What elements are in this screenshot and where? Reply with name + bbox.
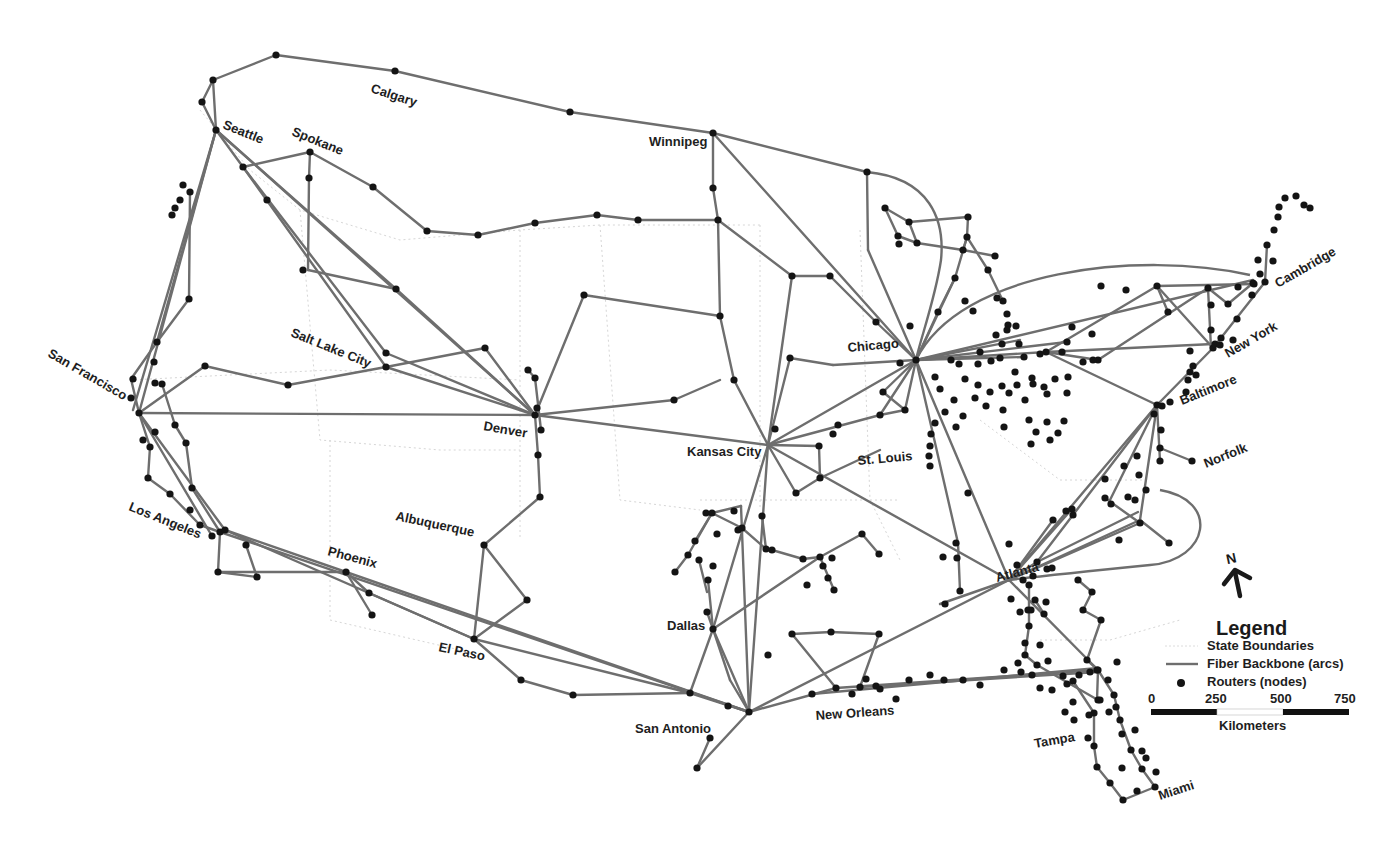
fiber-arc: [148, 478, 170, 494]
router-node: [1014, 659, 1021, 666]
fiber-arc: [718, 220, 792, 276]
router-node: [1156, 457, 1163, 464]
router-node: [901, 406, 908, 413]
router-node: [1005, 540, 1012, 547]
fiber-arc: [584, 295, 720, 316]
router-node: [956, 587, 963, 594]
router-node: [894, 232, 901, 239]
router-node: [1207, 326, 1214, 333]
fiber-arc: [772, 550, 803, 559]
router-node: [151, 428, 158, 435]
router-node: [1192, 371, 1199, 378]
router-node: [959, 412, 966, 419]
fiber-arc: [535, 295, 584, 415]
router-node: [1070, 716, 1077, 723]
router-node: [182, 439, 189, 446]
fiber-arc: [699, 560, 707, 592]
legend-item-routers: Routers (nodes): [1177, 674, 1307, 689]
router-node: [999, 406, 1006, 413]
router-node: [959, 676, 966, 683]
router-node: [534, 451, 541, 458]
router-node: [1248, 291, 1255, 298]
fiber-arc: [1208, 288, 1211, 348]
router-node: [1074, 576, 1081, 583]
city-label: Calgary: [369, 81, 420, 110]
router-node: [1233, 315, 1240, 322]
router-node: [730, 376, 737, 383]
router-node: [1156, 444, 1163, 451]
router-node: [1152, 768, 1159, 775]
legend-label: Routers (nodes): [1207, 674, 1307, 689]
router-node: [1036, 641, 1043, 648]
router-node: [1112, 703, 1119, 710]
router-node: [537, 426, 544, 433]
router-node: [1093, 763, 1100, 770]
router-node: [1165, 539, 1172, 546]
router-node: [730, 507, 737, 514]
fiber-arc: [713, 133, 867, 172]
legend-item-state-boundaries: State Boundaries: [1165, 638, 1314, 653]
router-node: [1089, 356, 1096, 363]
router-node: [895, 240, 902, 247]
fiber-arc: [148, 447, 150, 478]
router-node: [961, 297, 968, 304]
router-node: [1306, 204, 1313, 211]
fiber-arc: [713, 629, 730, 680]
city-label: Dallas: [667, 618, 705, 633]
router-node: [391, 67, 398, 74]
router-node: [1157, 426, 1164, 433]
router-node: [1063, 338, 1070, 345]
scale-tick-0: 0: [1148, 691, 1155, 706]
router-node: [221, 526, 228, 533]
router-node: [1164, 308, 1171, 315]
fiber-arc: [243, 152, 310, 167]
router-node: [998, 340, 1005, 347]
router-node: [771, 425, 778, 432]
fiber-arc: [831, 632, 879, 634]
router-node: [1186, 347, 1193, 354]
fiber-arc: [535, 215, 597, 223]
router-node: [593, 211, 600, 218]
router-node: [139, 436, 146, 443]
router-node: [1036, 350, 1043, 357]
router-node: [517, 676, 524, 683]
router-node: [959, 246, 966, 253]
router-node: [905, 218, 912, 225]
fiber-arc: [386, 367, 535, 415]
router-node: [828, 554, 835, 561]
router-node: [1021, 396, 1028, 403]
router-node: [127, 394, 134, 401]
fiber-arc: [697, 738, 710, 768]
router-node: [185, 295, 192, 302]
router-node: [299, 266, 306, 273]
router-node: [1153, 282, 1160, 289]
north-arrow-label: N: [1224, 549, 1237, 567]
router-node: [1085, 711, 1092, 718]
router-node: [144, 474, 151, 481]
fiber-arc: [535, 415, 538, 455]
router-node: [709, 129, 716, 136]
router-node: [1088, 330, 1095, 337]
fiber-arc: [867, 172, 868, 250]
city-label: Cambridge: [1272, 244, 1338, 291]
legend-item-fiber-backbone: Fiber Backbone (arcs): [1166, 656, 1344, 671]
router-node: [987, 357, 994, 364]
fiber-arc: [427, 231, 478, 235]
router-node: [940, 676, 947, 683]
fiber-arc: [690, 629, 713, 693]
fiber-arc: [1160, 448, 1192, 461]
router-node: [1217, 334, 1224, 341]
router-node: [1133, 452, 1140, 459]
router-node: [1263, 241, 1270, 248]
router-node: [481, 344, 488, 351]
router-node: [941, 408, 948, 415]
fiber-arc: [830, 276, 876, 322]
router-node: [1101, 475, 1108, 482]
router-node: [709, 562, 716, 569]
router-node: [826, 272, 833, 279]
router-dot-icon: [1177, 679, 1185, 687]
router-node: [1021, 639, 1028, 646]
router-node: [1049, 516, 1056, 523]
router-node: [927, 430, 934, 437]
router-node: [272, 51, 279, 58]
